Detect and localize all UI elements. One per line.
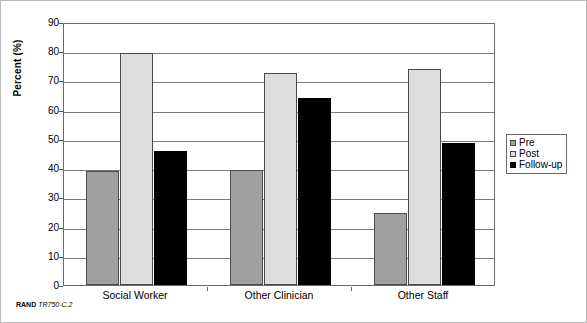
legend-label: Pre xyxy=(519,137,535,148)
y-axis-tick-label: 80 xyxy=(31,47,59,57)
y-axis-tick-mark xyxy=(59,111,63,112)
y-axis-tick-mark xyxy=(59,286,63,287)
y-axis-tick-label: 90 xyxy=(31,18,59,28)
legend-label: Post xyxy=(519,148,539,159)
bars-layer xyxy=(64,24,494,285)
bar-pre xyxy=(374,213,407,285)
chart-figure: Percent (%) 0102030405060708090 Social W… xyxy=(0,0,587,323)
caption-brand: RAND xyxy=(16,301,36,308)
y-axis-tick-mark xyxy=(59,169,63,170)
legend-swatch-icon xyxy=(510,140,516,146)
bar-follow-up xyxy=(442,143,475,285)
y-axis-tick-label: 20 xyxy=(31,223,59,233)
bar-follow-up xyxy=(154,151,187,285)
y-axis-tick-mark xyxy=(59,198,63,199)
x-axis-category-label: Other Clinician xyxy=(207,289,351,301)
y-axis-tick-mark xyxy=(59,228,63,229)
y-axis-tick-mark xyxy=(59,23,63,24)
legend-label: Follow-up xyxy=(519,159,562,170)
y-axis-tick-labels: 0102030405060708090 xyxy=(31,23,59,286)
chart-legend: PrePostFollow-up xyxy=(506,134,567,174)
bar-pre xyxy=(230,170,263,285)
y-axis-tick-label: 60 xyxy=(31,106,59,116)
y-axis-tick-label: 50 xyxy=(31,135,59,145)
y-axis-tick-label: 10 xyxy=(31,252,59,262)
y-axis-tick-label: 30 xyxy=(31,193,59,203)
y-axis-tick-label: 0 xyxy=(31,281,59,291)
y-axis-tick-mark xyxy=(59,81,63,82)
figure-caption: RAND TR750-C.2 xyxy=(16,300,72,309)
y-axis-tick-mark xyxy=(59,52,63,53)
x-axis-category-label: Social Worker xyxy=(63,289,207,301)
y-axis-tick-label: 70 xyxy=(31,76,59,86)
legend-swatch-icon xyxy=(510,162,516,168)
y-axis-tick-label: 40 xyxy=(31,164,59,174)
y-axis-title: Percent (%) xyxy=(7,13,29,123)
bar-group xyxy=(86,24,187,285)
bar-group xyxy=(230,24,331,285)
x-axis-category-label: Other Staff xyxy=(351,289,495,301)
legend-item: Pre xyxy=(510,137,562,148)
legend-swatch-icon xyxy=(510,151,516,157)
legend-item: Follow-up xyxy=(510,159,562,170)
bar-post xyxy=(120,53,153,285)
bar-post xyxy=(264,73,297,285)
y-axis-tick-mark xyxy=(59,140,63,141)
bar-follow-up xyxy=(298,98,331,285)
y-axis-tick-mark xyxy=(59,257,63,258)
caption-code: TR750-C.2 xyxy=(38,301,72,308)
plot-area xyxy=(63,23,495,286)
legend-item: Post xyxy=(510,148,562,159)
bar-group xyxy=(374,24,475,285)
bar-pre xyxy=(86,171,119,285)
bar-post xyxy=(408,69,441,285)
